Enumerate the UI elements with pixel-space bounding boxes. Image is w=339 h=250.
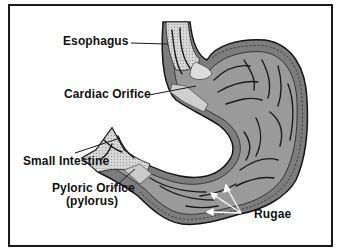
label-pyloric-orifice-line2: (pylorus)	[52, 195, 132, 208]
label-pyloric-orifice: Pyloric Orifice (pylorus)	[52, 182, 132, 208]
label-rugae: Rugae	[254, 208, 291, 221]
label-cardiac-orifice: Cardiac Orifice	[64, 88, 151, 101]
label-esophagus: Esophagus	[63, 35, 129, 48]
label-small-intestine: Small Intestine	[23, 155, 109, 168]
